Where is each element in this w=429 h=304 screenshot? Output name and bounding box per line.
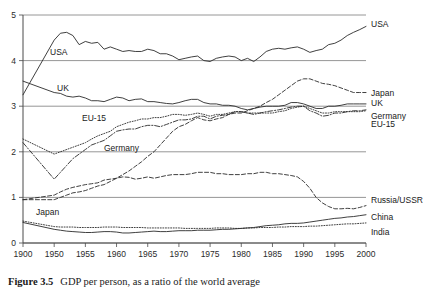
- series-line-eu-15: [23, 106, 366, 154]
- figure-caption-text: GDP per person, as a ratio of the world …: [60, 276, 260, 287]
- series-line-russia-ussr: [23, 172, 366, 208]
- y-tick-label: 1: [11, 192, 16, 202]
- right-label-japan: Japan: [371, 88, 394, 98]
- y-tick-label: 2: [11, 147, 16, 157]
- series-lines: [23, 26, 366, 233]
- gridlines: [19, 15, 366, 243]
- right-label-india: India: [371, 227, 390, 237]
- x-tick-label: 1955: [76, 249, 95, 259]
- x-tick-label: 1975: [201, 249, 220, 259]
- right-label-russia-ussr: Russia/USSR: [371, 195, 423, 205]
- series-line-china: [23, 215, 366, 233]
- x-tick-label: 1900: [14, 249, 33, 259]
- x-tick-label: 1985: [263, 249, 282, 259]
- x-tick-label: 1995: [325, 249, 344, 259]
- right-label-uk: UK: [371, 98, 383, 108]
- series-line-uk: [23, 81, 366, 110]
- inline-label-eu-15: EU-15: [82, 113, 106, 123]
- series-labels: USAUKEU-15GermanyJapanRussia/USSRChinaIn…: [36, 19, 423, 237]
- x-tick-label: 1960: [107, 249, 126, 259]
- inline-label-japan: Japan: [36, 207, 59, 217]
- figure-caption-label: Figure 3.5: [8, 276, 53, 287]
- series-line-germany: [23, 106, 366, 179]
- figure-caption: Figure 3.5GDP per person, as a ratio of …: [8, 276, 423, 287]
- x-tick-label: 1970: [169, 249, 188, 259]
- inline-label-usa: USA: [50, 47, 68, 57]
- x-tick-label: 1990: [294, 249, 313, 259]
- x-tick-label: 1980: [232, 249, 251, 259]
- y-tick-label: 3: [11, 101, 16, 111]
- x-tick-label: 1965: [138, 249, 157, 259]
- figure-container: 012345 190019501955196019651970197519801…: [0, 0, 429, 304]
- x-axis: 1900195019551960196519701975198019851990…: [14, 243, 376, 259]
- right-label-usa: USA: [371, 19, 389, 29]
- y-tick-label: 0: [11, 238, 16, 248]
- inline-label-uk: UK: [57, 83, 69, 93]
- y-axis: 012345: [11, 10, 23, 248]
- right-label-germany: Germany: [371, 111, 407, 121]
- inline-label-germany: Germany: [104, 143, 140, 153]
- gdp-per-person-line-chart: 012345 190019501955196019651970197519801…: [0, 0, 429, 268]
- right-label-china: China: [371, 212, 393, 222]
- series-line-india: [23, 221, 366, 228]
- x-tick-label: 1950: [45, 249, 64, 259]
- x-tick-label: 2000: [357, 249, 376, 259]
- y-tick-label: 4: [11, 56, 16, 66]
- y-tick-label: 5: [11, 10, 16, 20]
